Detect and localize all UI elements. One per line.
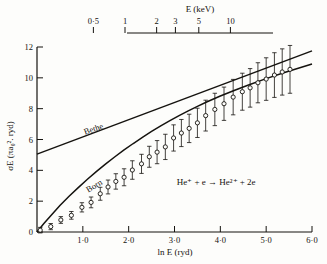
data-marker: [222, 102, 226, 106]
data-marker: [80, 205, 84, 209]
data-marker: [288, 67, 292, 71]
data-point: [122, 169, 126, 186]
data-marker: [187, 126, 191, 130]
data-marker: [122, 175, 126, 179]
data-marker: [147, 155, 151, 159]
top-axis-tick-label: 0·5: [88, 16, 99, 26]
data-marker: [59, 218, 63, 222]
data-marker: [213, 107, 217, 111]
y-axis-tick-label: 12: [25, 42, 34, 52]
data-marker: [130, 168, 134, 172]
data-point: [155, 141, 159, 164]
y-axis: 024681012 σE (πa₀². ryd): [5, 42, 43, 237]
top-axis-tick-label: 1: [123, 16, 127, 26]
x-axis-tick-label: 6·0: [306, 235, 317, 245]
born-curve: [37, 64, 312, 232]
y-axis-tick-label: 4: [29, 165, 34, 175]
data-marker: [155, 150, 159, 154]
data-point: [89, 197, 93, 208]
x-axis-tick-label: 5·0: [260, 235, 271, 245]
data-marker: [248, 86, 252, 90]
data-point: [139, 154, 143, 173]
data-point: [69, 211, 73, 219]
born-line: [37, 64, 312, 232]
data-marker: [179, 131, 183, 135]
x-axis-tick-label: 2·0: [123, 235, 134, 245]
y-axis-ticks: [37, 47, 43, 232]
y-axis-tick-label: 8: [29, 104, 33, 114]
reaction-annotation: He⁺ + e → He²⁺ + 2e: [177, 177, 256, 187]
y-axis-tick-labels: 024681012: [25, 42, 34, 237]
data-point: [114, 174, 118, 189]
data-point: [147, 146, 151, 167]
data-point: [203, 100, 207, 131]
data-point: [240, 73, 244, 110]
top-axis-tick-label: 10: [226, 16, 235, 26]
data-point: [222, 87, 226, 120]
top-axis-tick-label: 2: [155, 16, 159, 26]
data-point: [256, 63, 260, 103]
data-point: [98, 187, 102, 200]
data-point: [272, 53, 276, 98]
data-marker: [231, 95, 235, 99]
top-axis-tick-labels: 0·5123510: [88, 16, 235, 26]
y-axis-title: σE (πa₀². ryd): [5, 121, 15, 170]
x-axis-tick-label: 4·0: [215, 235, 226, 245]
data-point: [280, 49, 284, 95]
top-axis-tick-label: 5: [197, 16, 201, 26]
data-marker: [98, 192, 102, 196]
data-point: [80, 203, 84, 212]
figure-container: 0·5123510 E (keV) 024681012 σE (πa₀². ry…: [0, 0, 327, 264]
data-marker: [195, 121, 199, 125]
data-point: [179, 119, 183, 146]
data-point: [59, 217, 63, 224]
top-axis: 0·5123510 E (keV): [88, 4, 273, 33]
data-marker: [171, 136, 175, 140]
top-axis-tick-label: 3: [173, 16, 177, 26]
data-marker: [139, 162, 143, 166]
x-axis-tick-label: 3·0: [169, 235, 180, 245]
plot-canvas: 0·5123510 E (keV) 024681012 σE (πa₀². ry…: [0, 0, 327, 264]
data-marker: [69, 213, 73, 217]
data-marker: [264, 77, 268, 81]
data-point: [195, 108, 199, 137]
curve-annotation: Bethe: [83, 121, 105, 137]
x-axis-tick-labels: 1·02·03·04·05·06·0: [77, 235, 318, 245]
data-marker: [38, 228, 42, 232]
data-marker: [256, 81, 260, 85]
data-point: [264, 58, 268, 101]
y-axis-tick-label: 6: [29, 135, 33, 145]
data-point: [288, 45, 292, 93]
top-axis-title: E (keV): [186, 4, 215, 14]
data-point: [49, 224, 53, 230]
data-marker: [280, 70, 284, 74]
x-axis: 1·02·03·04·05·06·0 ln E (ryd): [37, 226, 318, 257]
data-point: [38, 227, 42, 233]
top-axis-ticks: [93, 27, 230, 33]
curve-annotations: BetheBornHe⁺ + e → He²⁺ + 2e: [83, 121, 256, 195]
y-axis-tick-label: 2: [29, 196, 33, 206]
x-axis-ticks: [83, 226, 312, 232]
data-point: [106, 180, 110, 194]
data-point: [187, 114, 191, 142]
data-marker: [106, 185, 110, 189]
data-marker: [240, 90, 244, 94]
data-marker: [49, 225, 53, 229]
data-point: [163, 134, 167, 159]
y-axis-tick-label: 10: [25, 73, 34, 83]
data-point: [231, 79, 235, 114]
data-marker: [89, 200, 93, 204]
data-point: [130, 161, 134, 180]
data-marker: [163, 145, 167, 149]
x-axis-tick-label: 1·0: [77, 235, 88, 245]
y-axis-tick-label: 0: [29, 227, 33, 237]
data-point: [171, 125, 175, 151]
data-marker: [114, 179, 118, 183]
data-marker: [272, 73, 276, 77]
x-axis-title: ln E (ryd): [158, 247, 193, 257]
data-marker: [204, 114, 208, 118]
